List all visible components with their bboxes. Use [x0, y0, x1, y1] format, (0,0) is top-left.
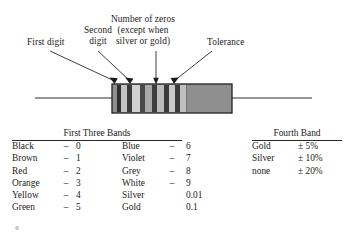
table-row: Gold ± 5%: [252, 141, 342, 154]
cell-dash: –: [56, 178, 76, 190]
cell-dash: –: [162, 178, 182, 190]
cell-dash: –: [162, 153, 182, 165]
table-row: Fourth Band: [252, 128, 342, 141]
cell-dash: –: [56, 202, 76, 214]
cell-value: 5: [76, 202, 112, 214]
cell-value: 8: [182, 166, 220, 178]
cell-value: 1: [76, 153, 112, 165]
table-row: Brown – 1 Violet – 7: [12, 153, 220, 165]
table-row: First Three Bands: [12, 128, 220, 141]
leader-first-digit: [50, 51, 115, 81]
leader-arrowheads: [110, 78, 179, 85]
arrowhead-number-of-zeros: [153, 78, 159, 85]
leader-second-digit: [98, 51, 130, 81]
cell-tolerance: ± 20%: [292, 166, 342, 178]
callout-label-group: First digit Second digit Number of zeros…: [0, 6, 347, 50]
arrowhead-first-digit: [110, 78, 118, 84]
cell-value: 0.1: [182, 202, 220, 214]
table-first-three-bands: First Three Bands Black – 0 Blue – 6 Bro…: [12, 128, 220, 214]
arrowhead-second-digit: [125, 78, 133, 84]
table-row: Red – 2 Grey – 8: [12, 166, 220, 178]
band-tolerance: [175, 85, 180, 112]
table-heading-fourth-band: Fourth Band: [252, 128, 342, 141]
leader-tolerance: [174, 51, 212, 81]
cell-tolerance: ± 10%: [292, 153, 342, 165]
callout-label-second-digit: Second digit: [84, 25, 112, 47]
cell-dash: –: [56, 141, 76, 154]
cell-value: 3: [76, 178, 112, 190]
cell-color: Yellow: [12, 190, 56, 202]
cell-value: 9: [182, 178, 220, 190]
table-row: Silver ± 10%: [252, 153, 342, 165]
callout-label-tolerance: Tolerance: [207, 37, 244, 48]
table-row: none ± 20%: [252, 166, 342, 178]
cell-value: 2: [76, 166, 112, 178]
leader-lines: [50, 51, 212, 81]
resistor-color-code-figure: First digit Second digit Number of zeros…: [0, 0, 347, 239]
cell-dash: –: [56, 153, 76, 165]
cell-color: Violet: [112, 153, 162, 165]
band-spacer-6: [180, 85, 186, 112]
cell-dash: –: [162, 141, 182, 154]
band-dark-5: [164, 85, 169, 112]
table-row: Orange – 3 White – 9: [12, 178, 220, 190]
cell-value: 0: [76, 141, 112, 154]
band-spacer-3: [145, 85, 152, 112]
arrowhead-tolerance: [171, 78, 179, 85]
band-first-digit: [117, 85, 121, 112]
resistor-body: [112, 84, 232, 113]
table-heading-first-three-bands: First Three Bands: [12, 128, 182, 141]
callout-label-number-of-zeros: Number of zeros (except when silver or g…: [111, 14, 175, 48]
cell-color: Grey: [112, 166, 162, 178]
cell-color: White: [112, 178, 162, 190]
cell-color: Silver: [252, 153, 292, 165]
band-spacer-4: [157, 85, 164, 112]
cell-color: Gold: [252, 141, 292, 154]
cell-dash: –: [56, 190, 76, 202]
cell-color: Red: [12, 166, 56, 178]
cell-dash: –: [56, 166, 76, 178]
table-row: Black – 0 Blue – 6: [12, 141, 220, 154]
cell-color: Green: [12, 202, 56, 214]
table-row: Green – 5 Gold 0.1: [12, 202, 220, 214]
cell-color: Gold: [112, 202, 162, 214]
cell-dash: –: [162, 166, 182, 178]
cell-tolerance: ± 5%: [292, 141, 342, 154]
cell-value: 6: [182, 141, 220, 154]
band-dark-3: [140, 85, 145, 112]
cell-color: Black: [12, 141, 56, 154]
cell-color: Blue: [112, 141, 162, 154]
cell-dash: [162, 202, 182, 214]
table-fourth-band: Fourth Band Gold ± 5% Silver ± 10% none …: [252, 128, 342, 178]
cell-color: Silver: [112, 190, 162, 202]
callout-label-first-digit: First digit: [27, 37, 65, 48]
band-spacer-5: [169, 85, 175, 112]
cell-value: 4: [76, 190, 112, 202]
table-row: Yellow – 4 Silver 0.01: [12, 190, 220, 202]
cell-dash: [162, 190, 182, 202]
cell-value: 7: [182, 153, 220, 165]
band-second-digit: [127, 85, 132, 112]
cell-color: Orange: [12, 178, 56, 190]
cell-value: 0.01: [182, 190, 220, 202]
scan-artifact-mark: [15, 226, 19, 230]
band-body-tail: [186, 85, 231, 112]
band-number-of-zeros: [152, 85, 157, 112]
resistor-bands: [113, 85, 231, 112]
band-spacer-1: [121, 85, 127, 112]
band-spacer-2: [132, 85, 140, 112]
cell-color: none: [252, 166, 292, 178]
cell-color: Brown: [12, 153, 56, 165]
band-gap-left: [113, 85, 117, 112]
